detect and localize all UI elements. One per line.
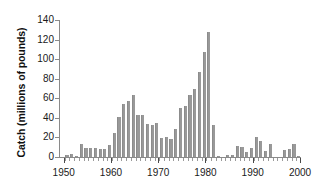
x-axis-minor-tick (145, 158, 146, 161)
x-axis-minor-tick (249, 158, 250, 161)
bar (188, 95, 191, 157)
x-axis-minor-tick (93, 158, 94, 161)
bar (84, 148, 87, 157)
bar (127, 101, 130, 157)
y-axis-tick (55, 137, 60, 138)
bar (212, 125, 215, 157)
x-axis-minor-tick (183, 158, 184, 161)
bar (141, 115, 144, 157)
bar (169, 139, 172, 157)
x-axis-tick (205, 158, 206, 163)
x-axis-tick (64, 158, 65, 163)
y-axis-tick (55, 79, 60, 80)
bar (75, 156, 78, 157)
y-axis-tick (55, 20, 60, 21)
bars-layer (60, 20, 301, 157)
x-axis-minor-tick (277, 158, 278, 161)
y-axis-tick (55, 40, 60, 41)
chart-figure: Catch (millions of pounds) 0204060801001… (0, 0, 319, 185)
x-axis-minor-tick (164, 158, 165, 161)
x-axis-minor-tick (84, 158, 85, 161)
bar (132, 95, 135, 157)
y-axis-tick-label: 20 (22, 130, 54, 143)
x-axis-minor-tick (126, 158, 127, 161)
bar (165, 137, 168, 157)
x-axis-minor-tick (107, 158, 108, 161)
y-axis-tick-label: 80 (22, 72, 54, 85)
y-axis-tick (55, 59, 60, 60)
x-axis-minor-tick (206, 158, 207, 161)
x-axis-minor-tick (216, 158, 217, 161)
x-axis-minor-tick (197, 158, 198, 161)
x-axis-tick-label: 2000 (280, 167, 319, 179)
bar (198, 72, 201, 157)
x-axis-minor-tick (112, 158, 113, 161)
x-axis-minor-tick (103, 158, 104, 161)
x-axis-minor-tick (192, 158, 193, 161)
bar (174, 129, 177, 157)
bar (226, 155, 229, 157)
plot-area: 0204060801001201401950196019701980199020… (59, 20, 301, 157)
x-axis-minor-tick (263, 158, 264, 161)
bar (184, 106, 187, 157)
x-axis-minor-tick (150, 158, 151, 161)
bar (217, 156, 220, 157)
x-axis-minor-tick (240, 158, 241, 161)
x-axis-minor-tick (98, 158, 99, 161)
x-axis-minor-tick (178, 158, 179, 161)
x-axis-minor-tick (202, 158, 203, 161)
x-axis-tick-label: 1960 (91, 167, 131, 179)
bar (99, 149, 102, 157)
y-axis-tick-label: 140 (22, 13, 54, 26)
bar (136, 115, 139, 157)
bar (80, 144, 83, 157)
x-axis-minor-tick (69, 158, 70, 161)
x-axis-minor-tick (65, 158, 66, 161)
x-axis-minor-tick (244, 158, 245, 161)
bar (288, 149, 291, 157)
bar (113, 133, 116, 157)
y-axis-tick (55, 118, 60, 119)
x-axis-minor-tick (211, 158, 212, 161)
x-axis-minor-tick (230, 158, 231, 161)
bar (297, 156, 300, 157)
bar (207, 32, 210, 157)
x-axis-minor-tick (117, 158, 118, 161)
x-axis-minor-tick (292, 158, 293, 161)
x-axis-minor-tick (131, 158, 132, 161)
x-axis-minor-tick (254, 158, 255, 161)
x-axis-minor-tick (258, 158, 259, 161)
x-axis-minor-tick (136, 158, 137, 161)
x-axis-minor-tick (169, 158, 170, 161)
x-axis-minor-tick (296, 158, 297, 161)
bar (240, 147, 243, 157)
x-axis-minor-tick (159, 158, 160, 161)
bar (155, 123, 158, 157)
x-axis-tick-label: 1970 (138, 167, 178, 179)
bar (264, 151, 267, 157)
bar (203, 52, 206, 157)
bar (89, 148, 92, 157)
bar (122, 104, 125, 157)
y-axis-tick-label: 0 (22, 150, 54, 163)
bar (269, 144, 272, 157)
y-axis-tick-label: 100 (22, 52, 54, 65)
bar (65, 155, 68, 157)
x-axis-minor-tick (188, 158, 189, 161)
x-axis-line (59, 157, 301, 158)
x-axis-minor-tick (287, 158, 288, 161)
x-axis-minor-tick (273, 158, 274, 161)
x-axis-tick (111, 158, 112, 163)
bar (292, 144, 295, 157)
bar (103, 149, 106, 157)
bar (236, 146, 239, 157)
y-axis-tick (55, 98, 60, 99)
bar (231, 155, 234, 157)
bar (245, 152, 248, 157)
x-axis-minor-tick (173, 158, 174, 161)
y-axis-tick-label: 40 (22, 111, 54, 124)
x-axis-minor-tick (155, 158, 156, 161)
bar (255, 137, 258, 157)
x-axis-minor-tick (225, 158, 226, 161)
bar (160, 138, 163, 157)
